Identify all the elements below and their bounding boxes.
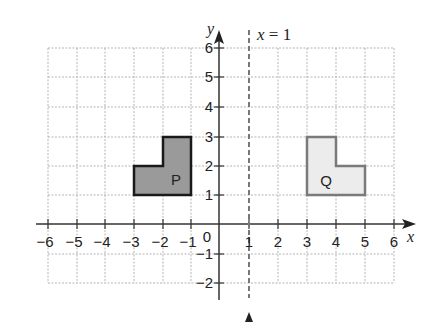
shape-q (307, 137, 365, 195)
shape-p-label: P (171, 171, 181, 188)
x-tick-label: −4 (93, 233, 110, 250)
x-tick-label: −2 (151, 233, 168, 250)
coordinate-grid: −6 −5 −4 −3 −2 −1 1 2 3 4 5 6 0 6 5 4 3 … (0, 0, 440, 322)
x-tick-label: 4 (332, 233, 340, 250)
y-tick-label: 5 (205, 68, 213, 85)
x-tick-label: −1 (179, 233, 196, 250)
x-tick-label: −5 (65, 233, 82, 250)
y-tick-label: 1 (205, 186, 213, 203)
origin-label: 0 (203, 228, 211, 245)
mirror-line-label: x = 1 (256, 25, 291, 44)
shape-p (134, 137, 191, 195)
x-tick-label: −6 (36, 233, 53, 250)
x-axis-label: x (406, 228, 414, 245)
y-tick-label: 3 (205, 128, 213, 145)
y-tick-label: 2 (205, 157, 213, 174)
x-tick-label: 5 (361, 233, 369, 250)
y-tick-label: −1 (196, 245, 213, 262)
mirror-line-arrow-icon (245, 312, 253, 322)
shape-q-label: Q (320, 172, 332, 189)
x-tick-label: −3 (122, 233, 139, 250)
x-tick-label: 2 (274, 233, 282, 250)
y-tick-label: 6 (205, 39, 213, 56)
x-tick-label: 1 (245, 233, 253, 250)
y-tick-label: 4 (205, 98, 213, 115)
y-axis-label: y (205, 20, 215, 38)
x-tick-label: 3 (303, 233, 311, 250)
x-tick-label: 6 (390, 233, 398, 250)
y-tick-label: −2 (196, 274, 213, 291)
